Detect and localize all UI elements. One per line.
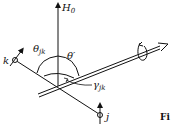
rod-arrowhead	[158, 43, 168, 51]
gamma-jk-label: γjk	[93, 80, 105, 92]
figure-caption-fragment: Fi	[160, 113, 170, 122]
spin-k-label: k	[3, 56, 9, 66]
gamma-jk-arc	[44, 73, 74, 78]
theta-jk-label: θjk	[33, 44, 45, 56]
field-label: H0	[62, 3, 75, 15]
theta-jk-arc	[37, 56, 58, 73]
theta-prime-label: θ′	[67, 51, 75, 61]
spin-j-label: j	[106, 112, 109, 122]
diagram-canvas	[0, 0, 173, 126]
